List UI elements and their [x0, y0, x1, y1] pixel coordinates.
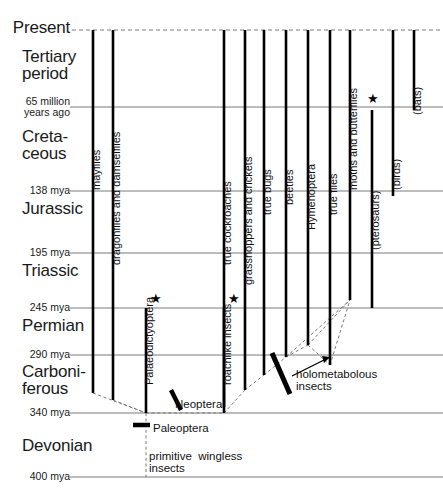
- period-label-tertiary: Tertiary period: [22, 48, 76, 82]
- time-tick-label-3: 195 mya: [30, 247, 70, 258]
- time-tick-label-4: 245 mya: [30, 302, 70, 313]
- lineage-label-roachlike-insects: roachlike insects: [221, 304, 233, 385]
- phylogeny-link-4: [224, 390, 245, 413]
- phylogeny-link-9: [286, 300, 350, 357]
- holometabolous-marker: [272, 353, 290, 394]
- phylogeny-link-1: [113, 400, 146, 413]
- period-label-triassic: Triassic: [22, 262, 78, 279]
- palaeodictyoptera-extinction-star-icon: ★: [150, 292, 162, 305]
- annotation-primitive-wingless: primitive wingless insects: [149, 450, 242, 475]
- lineage-label-true-bugs: true bugs: [261, 169, 273, 215]
- period-label-creta-: Creta- ceous: [22, 128, 68, 162]
- annotation-holometabolous: holometabolous insects: [296, 368, 377, 393]
- lineage-label-grasshoppers-and-crickets: grasshoppers and crickets: [242, 157, 254, 285]
- lineage-label-true-flies: true flies: [327, 173, 339, 215]
- lineage-label-mayflies: mayflies: [90, 150, 102, 190]
- period-label-jurassic: Jurassic: [22, 200, 83, 217]
- time-tick-label-5: 290 mya: [30, 349, 70, 360]
- lineage-label-true-cockroaches: true cockroaches: [221, 181, 233, 265]
- time-tick-label-6: 340 mya: [30, 407, 70, 418]
- lineage-label-palaeodictyoptera: Palaeodictyoptera: [143, 297, 155, 385]
- lineage-label-moths-and-butterflies: moths and butterflies: [347, 88, 359, 190]
- lineage-label--bats-: (bats): [411, 87, 423, 115]
- time-tick-label-7: 400 mya: [30, 471, 70, 482]
- period-label-devonian: Devonian: [22, 437, 92, 454]
- gridline-group: [70, 30, 443, 477]
- figure-canvas: Tertiary periodCreta- ceousJurassicTrias…: [0, 0, 443, 500]
- phylogeny-link-5: [245, 375, 264, 390]
- lineage-label--birds-: (birds): [390, 159, 402, 190]
- lineage-label-hymenoptera: Hymenoptera: [305, 164, 317, 230]
- period-label-carboni-: Carboni- ferous: [22, 363, 86, 397]
- annotation-paleoptera: Paleoptera: [153, 422, 209, 434]
- annotation-neoptera: Neoptera: [175, 398, 222, 410]
- time-tick-label-0: Present: [13, 19, 70, 36]
- pterosaur-extinction-star-icon: ★: [367, 92, 379, 105]
- time-tick-label-2: 138 mya: [30, 185, 70, 196]
- roachlike-extinction-star-icon: ★: [228, 292, 240, 305]
- period-label-permian: Permian: [22, 317, 84, 334]
- lineage-label--pterosaurs-: (pterosaurs): [369, 191, 381, 250]
- time-tick-label-1: 65 million years ago: [24, 96, 70, 117]
- lineage-label-beetles: beetles: [283, 170, 295, 205]
- lineage-label-dragonflies-and-damselflies: dragonflies and damselflies: [110, 132, 122, 265]
